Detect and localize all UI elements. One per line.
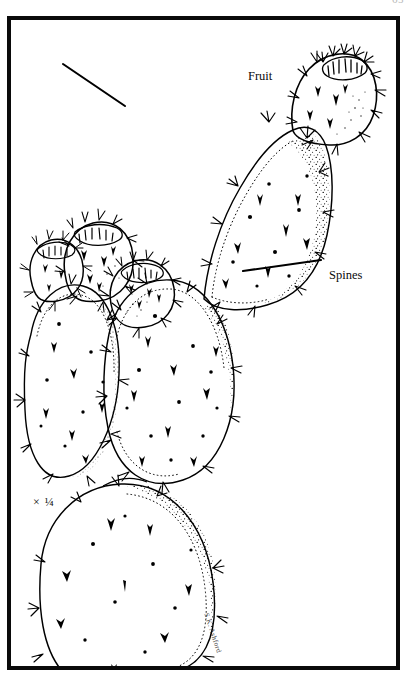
page-number: 65 — [392, 0, 404, 4]
plate-frame-border — [7, 16, 400, 670]
illustration-page: 65 — [0, 0, 415, 685]
